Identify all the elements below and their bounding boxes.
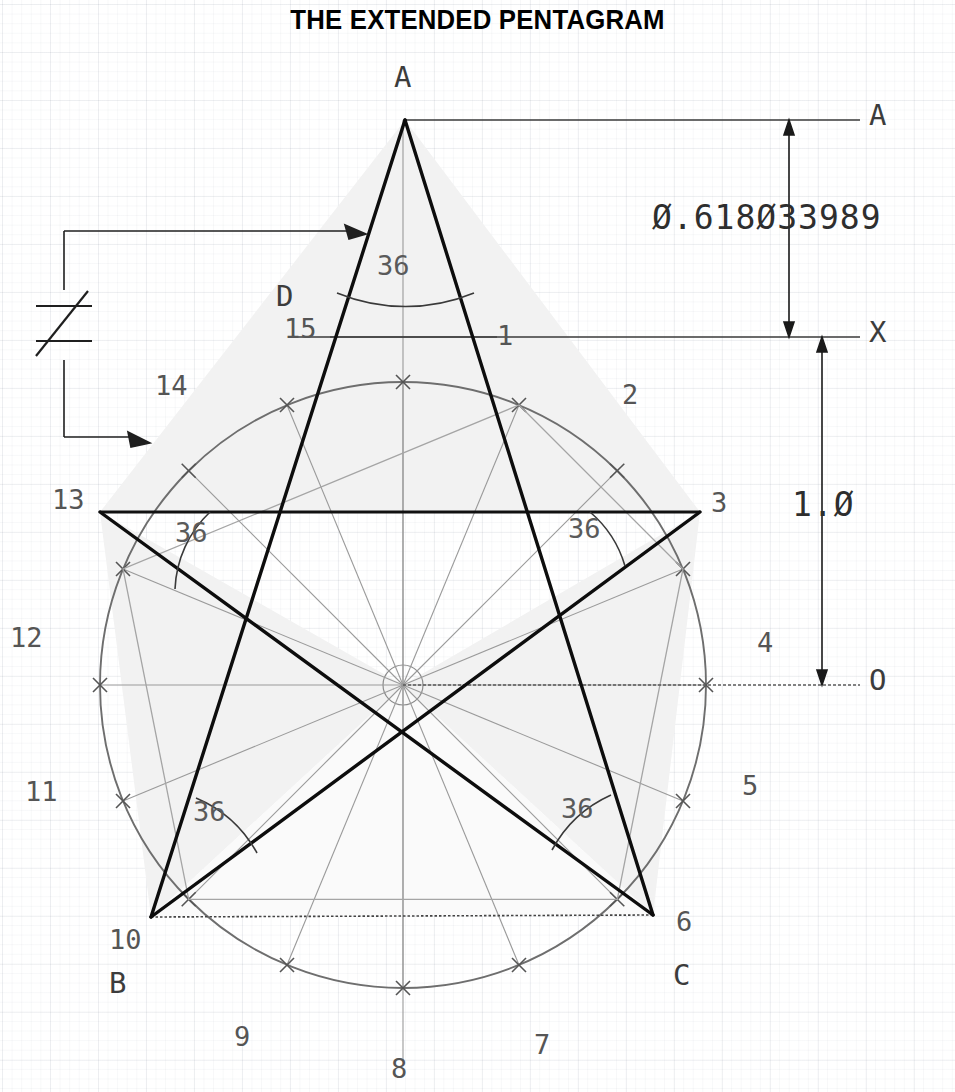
dim-label-X: X [869,315,886,349]
angle-label-apex: 36 [377,250,410,281]
tick-label-12: 12 [10,622,43,653]
vertex-label-A: A [394,60,411,94]
tick-label-4: 4 [757,627,773,658]
tick-label-7: 7 [534,1029,550,1060]
dimension-upper-value: Ø.618Ø33989 [652,198,882,237]
tick-label-8: 8 [391,1053,407,1084]
tick-label-2: 2 [622,379,638,410]
dim-label-O: O [869,663,886,697]
angle-label-left-lower: 36 [193,796,226,827]
angle-label-right-upper: 36 [568,513,601,544]
vertex-label-C: C [673,958,690,992]
dimension-lower-value: 1.Ø [792,485,855,524]
pentagram-drawing [0,0,955,1092]
angle-label-left-upper: 36 [175,517,208,548]
angle-label-right-lower: 36 [561,793,594,824]
vertex-label-D: D [276,279,293,313]
tick-label-3: 3 [711,487,727,518]
tick-label-10: 10 [109,924,142,955]
tick-label-6: 6 [676,906,692,937]
tick-label-14: 14 [155,370,188,401]
tick-label-15: 15 [284,313,317,344]
tick-label-9: 9 [234,1021,250,1052]
tick-label-11: 11 [25,776,58,807]
vertex-label-B: B [109,966,126,1000]
tick-label-1: 1 [497,320,513,351]
tick-label-5: 5 [742,770,758,801]
tick-label-13: 13 [52,484,85,515]
dim-label-A-top: A [869,98,886,132]
